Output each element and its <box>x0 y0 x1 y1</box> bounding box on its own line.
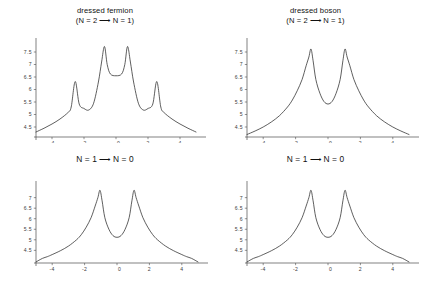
plot-top-left: -4-20244.555.566.577.5 <box>0 0 210 143</box>
x-tick-label: -2 <box>292 266 297 272</box>
x-tick-label: -4 <box>260 266 265 272</box>
panel-bottom-right: N = 1 ⟶ N = 0 -4-20244.555.566.57 <box>211 143 421 286</box>
x-tick-label: 2 <box>358 266 361 272</box>
y-tick-label: 7 <box>239 195 242 201</box>
y-tick-label: 5 <box>29 237 32 243</box>
data-curve <box>247 49 409 135</box>
y-tick-label: 5.5 <box>24 226 32 232</box>
y-tick-label: 6.5 <box>234 74 242 80</box>
y-tick-label: 6 <box>29 216 32 222</box>
x-tick-label: 4 <box>180 266 183 272</box>
y-tick-label: 6 <box>239 216 242 222</box>
panel-top-right: dressed boson (N = 2 ⟶ N = 1) -4-20244.5… <box>211 0 421 143</box>
plot-bottom-left: -4-20244.555.566.57 <box>0 143 210 286</box>
y-tick-label: 4.5 <box>24 124 32 130</box>
x-tick-label: -2 <box>82 266 87 272</box>
y-tick-label: 6.5 <box>234 205 242 211</box>
y-tick-label: 5 <box>239 237 242 243</box>
data-curve <box>247 190 409 262</box>
data-curve <box>36 190 198 262</box>
y-tick-label: 5.5 <box>234 226 242 232</box>
y-tick-label: 4.5 <box>234 124 242 130</box>
y-tick-label: 6 <box>239 86 242 92</box>
y-tick-label: 4.5 <box>24 247 32 253</box>
y-tick-label: 5 <box>29 111 32 117</box>
y-tick-label: 6.5 <box>24 74 32 80</box>
y-tick-label: 7.5 <box>24 49 32 55</box>
x-tick-label: -4 <box>50 266 55 272</box>
y-tick-label: 7.5 <box>234 49 242 55</box>
y-tick-label: 5 <box>239 111 242 117</box>
figure-panel-grid: dressed fermion (N = 2 ⟶ N = 1) -4-20244… <box>0 0 421 286</box>
x-tick-label: 4 <box>391 266 394 272</box>
x-tick-label: 2 <box>148 266 151 272</box>
plot-top-right: -4-20244.555.566.577.5 <box>211 0 421 143</box>
y-tick-label: 7 <box>29 61 32 67</box>
x-tick-label: 0 <box>118 266 121 272</box>
y-tick-label: 7 <box>29 195 32 201</box>
panel-bottom-left: N = 1 ⟶ N = 0 -4-20244.555.566.57 <box>0 143 210 286</box>
x-tick-label: 0 <box>328 266 331 272</box>
y-tick-label: 7 <box>239 61 242 67</box>
y-tick-label: 5.5 <box>234 99 242 105</box>
y-tick-label: 4.5 <box>234 247 242 253</box>
y-tick-label: 6 <box>29 86 32 92</box>
plot-bottom-right: -4-20244.555.566.57 <box>211 143 421 286</box>
panel-top-left: dressed fermion (N = 2 ⟶ N = 1) -4-20244… <box>0 0 210 143</box>
y-tick-label: 5.5 <box>24 99 32 105</box>
y-tick-label: 6.5 <box>24 205 32 211</box>
data-curve <box>36 46 196 132</box>
